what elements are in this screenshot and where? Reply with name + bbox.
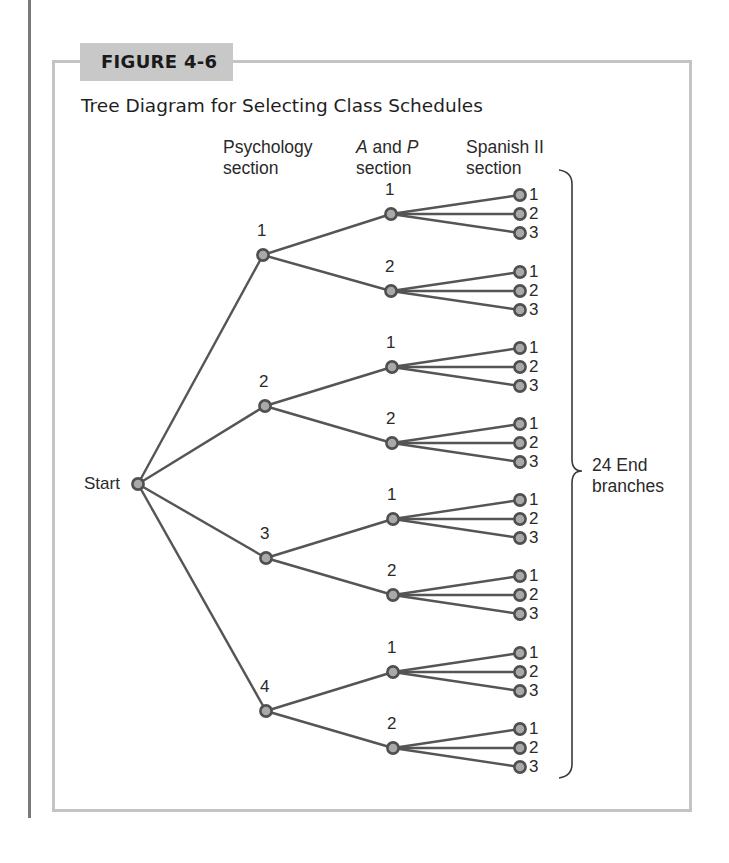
tree-branch	[392, 424, 520, 443]
tree-branch	[391, 195, 520, 214]
spanish-section-label: 3	[529, 453, 538, 471]
tree-branch	[266, 672, 393, 711]
spanish-section-label: 3	[529, 301, 538, 319]
spanish-section-label: 2	[529, 739, 538, 757]
spanish-leaf-node	[514, 227, 525, 238]
tree-branch	[392, 348, 520, 367]
spanish-leaf-node	[514, 494, 525, 505]
tree-branch	[138, 484, 266, 711]
psychology-node	[259, 400, 270, 411]
ap-section-label: 1	[387, 639, 396, 657]
ap-node	[386, 361, 397, 372]
spanish-section-label: 3	[529, 224, 538, 242]
spanish-leaf-node	[514, 380, 525, 391]
ap-node	[386, 437, 397, 448]
tree-branch	[263, 255, 391, 291]
spanish-section-label: 1	[529, 720, 538, 738]
tree-branch	[266, 558, 393, 595]
spanish-section-label: 1	[529, 415, 538, 433]
spanish-leaf-node	[514, 304, 525, 315]
spanish-section-label: 2	[529, 663, 538, 681]
ap-section-label: 1	[385, 181, 394, 199]
ap-node	[385, 285, 396, 296]
spanish-section-label: 1	[529, 644, 538, 662]
spanish-section-label: 2	[529, 358, 538, 376]
tree-branch	[266, 711, 393, 748]
spanish-section-label: 1	[529, 567, 538, 585]
spanish-leaf-node	[514, 761, 525, 772]
spanish-leaf-node	[514, 208, 525, 219]
start-node	[132, 478, 143, 489]
spanish-leaf-node	[514, 513, 525, 524]
spanish-section-label: 2	[529, 205, 538, 223]
tree-branch	[138, 406, 265, 484]
spanish-leaf-node	[514, 666, 525, 677]
tree-edges	[138, 195, 520, 767]
spanish-section-label: 3	[529, 377, 538, 395]
spanish-leaf-node	[514, 647, 525, 658]
ap-section-label: 2	[387, 715, 396, 733]
spanish-section-label: 1	[529, 491, 538, 509]
spanish-leaf-node	[514, 285, 525, 296]
psychology-section-label: 2	[259, 373, 268, 391]
spanish-section-label: 3	[529, 758, 538, 776]
ap-section-label: 2	[387, 562, 396, 580]
tree-branch	[393, 748, 520, 767]
tree-branch	[393, 672, 520, 691]
end-branches-brace	[559, 170, 582, 778]
spanish-section-label: 3	[529, 682, 538, 700]
spanish-section-label: 3	[529, 529, 538, 547]
tree-branch	[138, 484, 266, 558]
spanish-leaf-node	[514, 342, 525, 353]
ap-node	[387, 513, 398, 524]
tree-branch	[391, 272, 520, 291]
spanish-leaf-node	[514, 418, 525, 429]
ap-node	[387, 589, 398, 600]
ap-section-label: 1	[386, 334, 395, 352]
tree-branch	[393, 729, 520, 748]
spanish-section-label: 1	[529, 263, 538, 281]
tree-branch	[391, 291, 520, 310]
tree-branch	[391, 214, 520, 233]
tree-branch	[138, 255, 263, 484]
ap-node	[387, 742, 398, 753]
spanish-leaf-node	[514, 532, 525, 543]
psychology-section-label: 4	[260, 678, 269, 696]
tree-branch	[263, 214, 391, 255]
spanish-leaf-node	[514, 437, 525, 448]
tree-branch	[265, 406, 392, 443]
psychology-node	[260, 705, 271, 716]
tree-branch	[392, 367, 520, 386]
psychology-node	[260, 552, 271, 563]
tree-diagram	[0, 0, 729, 863]
spanish-leaf-node	[514, 723, 525, 734]
psychology-node	[257, 249, 268, 260]
tree-branch	[265, 367, 392, 406]
ap-node	[387, 666, 398, 677]
tree-branch	[393, 653, 520, 672]
tree-branch	[392, 443, 520, 462]
spanish-section-label: 2	[529, 282, 538, 300]
tree-branch	[393, 595, 520, 614]
spanish-leaf-node	[514, 742, 525, 753]
spanish-section-label: 2	[529, 510, 538, 528]
spanish-section-label: 2	[529, 586, 538, 604]
spanish-section-label: 1	[529, 339, 538, 357]
tree-branch	[393, 500, 520, 519]
spanish-section-label: 3	[529, 605, 538, 623]
psychology-section-label: 1	[257, 222, 266, 240]
ap-section-label: 2	[386, 410, 395, 428]
tree-branch	[393, 519, 520, 538]
spanish-leaf-node	[514, 189, 525, 200]
spanish-leaf-node	[514, 685, 525, 696]
spanish-leaf-node	[514, 608, 525, 619]
spanish-leaf-node	[514, 456, 525, 467]
spanish-section-label: 1	[529, 186, 538, 204]
ap-node	[385, 208, 396, 219]
spanish-leaf-node	[514, 361, 525, 372]
ap-section-label: 1	[387, 486, 396, 504]
spanish-leaf-node	[514, 589, 525, 600]
spanish-leaf-node	[514, 570, 525, 581]
spanish-leaf-node	[514, 266, 525, 277]
tree-nodes	[132, 189, 525, 772]
